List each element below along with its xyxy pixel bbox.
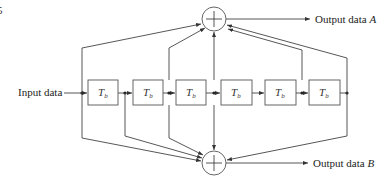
delay-box-5: Tb — [265, 80, 296, 105]
delay-box-1: Tb — [88, 80, 118, 105]
encoder-diagram: 5 Input data Tb Tb Tb Tb Tb Tb — [0, 0, 392, 188]
delay-box-3: Tb — [176, 80, 206, 105]
output-a-label: Output data A — [315, 13, 376, 25]
input-data-label: Input data — [18, 86, 62, 98]
delay-box-4: Tb — [221, 80, 252, 105]
figure-number-fragment: 5 — [0, 4, 3, 16]
output-b-label: Output data B — [313, 157, 374, 169]
delay-box-6: Tb — [309, 80, 340, 105]
delay-box-2: Tb — [133, 80, 163, 105]
adder-top — [202, 7, 226, 31]
adder-bottom — [202, 151, 226, 175]
